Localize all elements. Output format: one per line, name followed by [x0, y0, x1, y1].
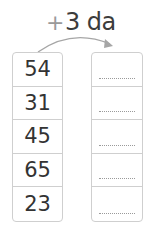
number-cell: 54 [13, 53, 62, 87]
input-numbers-column: 54 31 45 65 23 [12, 52, 63, 222]
answer-field[interactable] [92, 53, 142, 87]
dotted-line [99, 78, 135, 79]
dotted-line [99, 178, 135, 179]
answer-field[interactable] [92, 154, 142, 188]
dotted-line [99, 213, 135, 214]
number-cell: 65 [13, 154, 62, 188]
number-cell: 31 [13, 87, 62, 121]
number-cell: 23 [13, 187, 62, 221]
dotted-line [99, 111, 135, 112]
operation-value: 3 da [65, 8, 116, 36]
answer-field[interactable] [92, 187, 142, 221]
number-cell: 45 [13, 120, 62, 154]
answer-field[interactable] [92, 120, 142, 154]
plus-sign: + [46, 10, 64, 35]
dotted-line [99, 145, 135, 146]
answers-column [91, 52, 143, 222]
operation-label: +3 da [46, 7, 116, 37]
answer-field[interactable] [92, 87, 142, 121]
